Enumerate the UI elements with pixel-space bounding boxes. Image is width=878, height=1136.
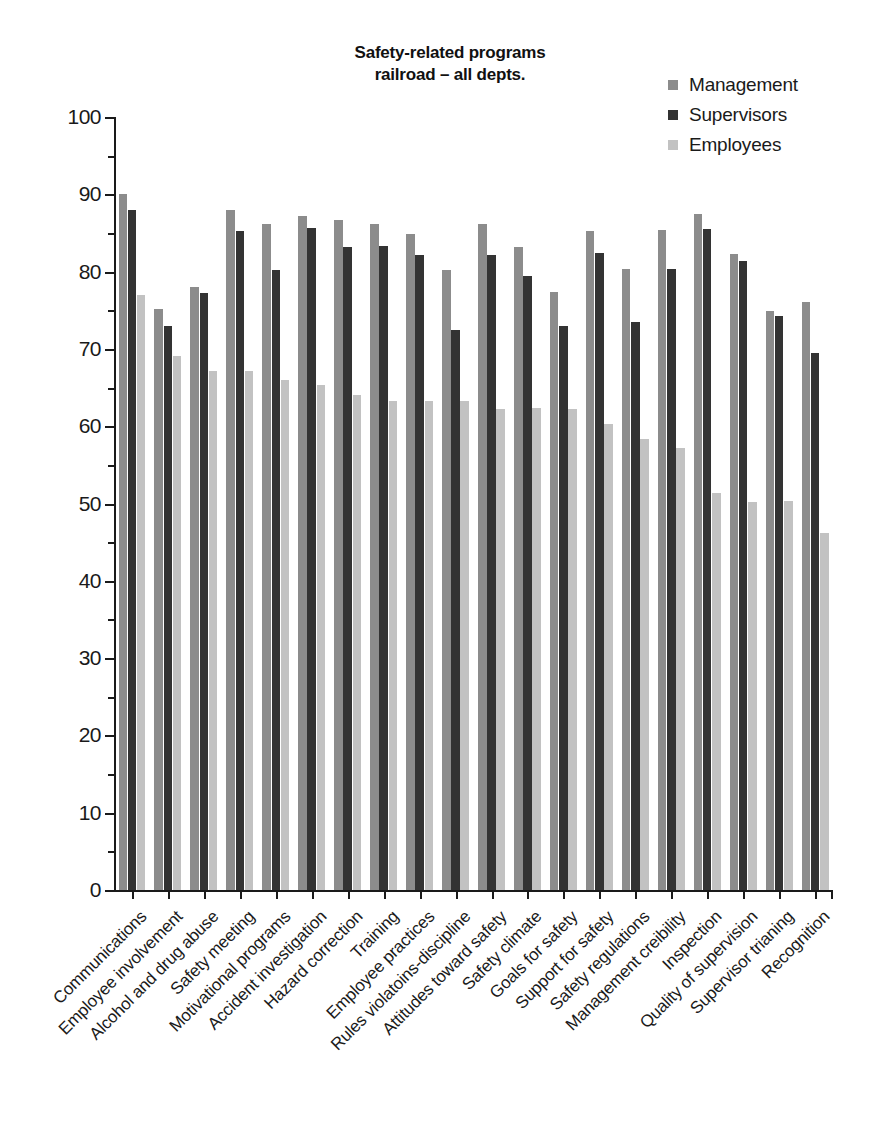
y-tick-major [105, 813, 114, 815]
bar [694, 214, 703, 890]
bar [748, 502, 757, 890]
y-tick-label: 80 [79, 260, 101, 284]
y-tick-major [105, 890, 114, 892]
bar [775, 316, 784, 890]
bar [353, 395, 362, 890]
y-tick-minor [108, 697, 114, 699]
chart-title: Safety-related programs railroad – all d… [255, 42, 645, 87]
y-tick-minor [108, 156, 114, 158]
bar [631, 322, 640, 890]
y-tick-minor [108, 465, 114, 467]
plot-area: 0102030405060708090100 [114, 117, 833, 890]
bar-chart: Safety-related programs railroad – all d… [0, 0, 878, 1136]
bar [209, 371, 218, 890]
y-tick-label: 40 [79, 569, 101, 593]
bar [245, 371, 254, 890]
y-tick-major [105, 658, 114, 660]
bar [712, 493, 721, 890]
bar [262, 224, 271, 890]
bar [478, 224, 487, 890]
bar [298, 216, 307, 890]
bar [119, 194, 128, 890]
bar [523, 276, 532, 890]
y-tick-minor [108, 774, 114, 776]
y-tick-major [105, 426, 114, 428]
y-tick-minor [108, 310, 114, 312]
bar [811, 353, 820, 890]
bar [236, 231, 245, 890]
y-tick-label: 70 [79, 337, 101, 361]
bar [568, 409, 577, 890]
bar [784, 501, 793, 890]
y-tick-major [105, 194, 114, 196]
y-tick-major [105, 735, 114, 737]
y-tick-label: 90 [79, 182, 101, 206]
bar [532, 408, 541, 890]
bar [281, 380, 290, 890]
y-tick-minor [108, 542, 114, 544]
bar [415, 255, 424, 890]
bar [460, 401, 469, 890]
y-tick-label: 100 [67, 105, 101, 129]
chart-title-line-2: railroad – all depts. [255, 64, 645, 86]
y-tick-label: 20 [79, 723, 101, 747]
bar [487, 255, 496, 890]
x-axis-labels: CommunicationsEmployee involvementAlcoho… [114, 890, 874, 1130]
y-tick-label: 0 [90, 878, 101, 902]
bar [272, 270, 281, 890]
bar [190, 287, 199, 890]
bar [766, 311, 775, 890]
y-tick-major [105, 349, 114, 351]
y-tick-label: 50 [79, 492, 101, 516]
bar [739, 261, 748, 890]
bar [307, 228, 316, 890]
bar [640, 439, 649, 890]
bar [128, 210, 137, 890]
bar [425, 401, 434, 890]
bar [559, 326, 568, 890]
bar [154, 309, 163, 890]
bar [667, 269, 676, 890]
bar [802, 302, 811, 890]
y-tick-label: 60 [79, 414, 101, 438]
y-tick-minor [108, 619, 114, 621]
legend-item-label: Management [689, 74, 798, 96]
bar [730, 254, 739, 890]
y-tick-major [105, 117, 114, 119]
bar [200, 293, 209, 890]
bar [496, 409, 505, 890]
bar [586, 231, 595, 890]
bar [406, 234, 415, 890]
y-tick-label: 30 [79, 646, 101, 670]
bar [604, 424, 613, 890]
bar [442, 270, 451, 890]
bar [226, 210, 235, 890]
chart-title-line-1: Safety-related programs [355, 43, 546, 62]
y-tick-major [105, 504, 114, 506]
bar [550, 292, 559, 890]
bar [595, 253, 604, 890]
bar [451, 330, 460, 890]
bar [343, 247, 352, 890]
bar [676, 448, 685, 890]
bar [137, 295, 146, 890]
bar [658, 230, 667, 890]
bar [622, 269, 631, 890]
bar [820, 533, 829, 890]
bar [164, 326, 173, 890]
y-tick-label: 10 [79, 801, 101, 825]
bar [173, 356, 182, 890]
y-tick-minor [108, 851, 114, 853]
bar [514, 247, 523, 890]
y-tick-minor [108, 388, 114, 390]
bar [379, 246, 388, 890]
y-axis [114, 117, 116, 890]
bar [317, 385, 326, 890]
bar [370, 224, 379, 890]
legend-swatch-icon [668, 80, 678, 90]
bar [703, 229, 712, 890]
bar [389, 401, 398, 890]
legend-item[interactable]: Management [668, 70, 868, 100]
y-tick-minor [108, 233, 114, 235]
y-tick-major [105, 581, 114, 583]
